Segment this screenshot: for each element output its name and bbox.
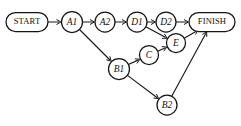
node-b2[interactable]: B2 xyxy=(157,95,177,115)
graph-canvas: STARTA1A2D1D2FINISHECB1B2 xyxy=(0,0,241,126)
node-b1[interactable]: B1 xyxy=(109,59,130,80)
edge-e-finish-line xyxy=(185,31,196,38)
node-e-label: E xyxy=(172,38,179,48)
edge-b1-b2-line xyxy=(128,76,157,98)
node-d2[interactable]: D2 xyxy=(156,12,176,32)
node-c-label: C xyxy=(146,50,153,60)
edge-b1-b2 xyxy=(128,76,159,99)
node-c[interactable]: C xyxy=(140,46,159,65)
node-a2[interactable]: A2 xyxy=(95,12,115,32)
edge-c-e xyxy=(158,47,167,52)
node-finish[interactable]: FINISH xyxy=(189,13,235,32)
node-finish-label: FINISH xyxy=(198,16,226,26)
node-a1[interactable]: A1 xyxy=(62,12,83,33)
edge-a1-b1-line xyxy=(80,30,110,60)
edge-a1-a2 xyxy=(83,20,94,25)
node-d1[interactable]: D1 xyxy=(127,12,147,32)
activity-network-diagram: STARTA1A2D1D2FINISHECB1B2 xyxy=(0,0,241,126)
edge-b1-c-line xyxy=(129,60,138,64)
node-b1-label: B1 xyxy=(114,64,125,74)
node-a2-label: A2 xyxy=(99,17,111,27)
nodes-layer: STARTA1A2D1D2FINISHECB1B2 xyxy=(6,12,235,116)
edge-d1-d2 xyxy=(148,20,156,25)
edge-a1-b1 xyxy=(80,30,111,61)
node-start-label: START xyxy=(14,16,41,26)
node-b2-label: B2 xyxy=(162,100,173,110)
node-e[interactable]: E xyxy=(167,34,186,53)
edge-start-a1 xyxy=(49,20,61,25)
edge-b1-c xyxy=(129,59,140,64)
node-d1-label: D1 xyxy=(130,17,143,27)
node-a1-label: A1 xyxy=(66,17,78,27)
node-d2-label: D2 xyxy=(159,17,172,27)
edge-a2-d1 xyxy=(116,20,127,25)
node-start[interactable]: START xyxy=(6,13,48,32)
edge-d2-finish xyxy=(177,20,189,25)
